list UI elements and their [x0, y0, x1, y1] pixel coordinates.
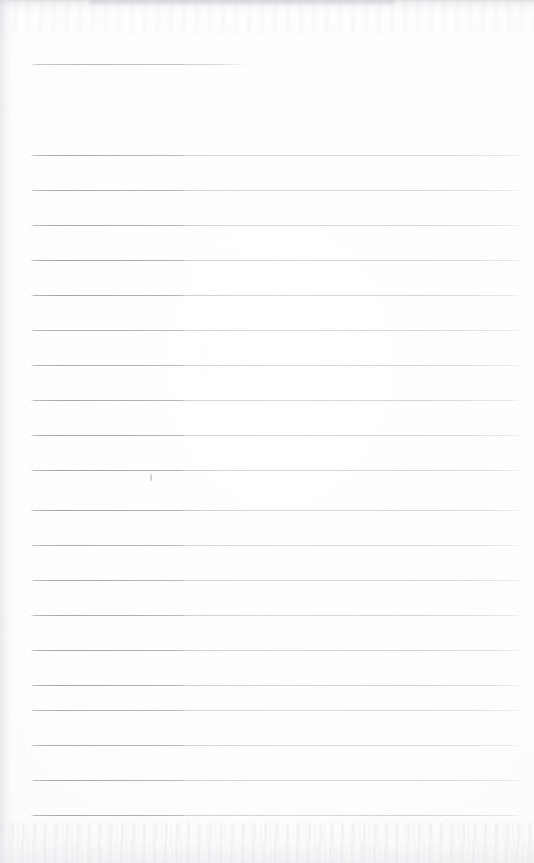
ruled-line-segment-left	[30, 225, 183, 226]
ruled-line-segment-left	[30, 615, 183, 616]
ruled-line	[0, 190, 522, 191]
ruled-line	[0, 435, 522, 436]
ruled-line	[0, 580, 522, 581]
ruled-line-segment-right	[183, 330, 522, 331]
ruled-line-segment-right	[183, 295, 522, 296]
ruled-line	[0, 685, 522, 686]
paper-background	[0, 0, 534, 863]
scan-edge-left-shadow	[0, 0, 18, 863]
ruled-line	[0, 330, 522, 331]
ruled-line-segment-left	[30, 190, 183, 191]
ruled-line-segment-right	[183, 780, 522, 781]
ruled-line-segment-left	[30, 470, 183, 471]
ruled-line-segment-left	[30, 155, 183, 156]
ruled-line-segment-left	[30, 64, 183, 65]
ruled-line	[0, 650, 522, 651]
ruled-line-segment-right	[183, 710, 522, 711]
ruled-line	[0, 64, 522, 65]
ruled-line-segment-right	[183, 685, 522, 686]
ruled-line-segment-right	[183, 190, 522, 191]
ruled-line-segment-left	[30, 745, 183, 746]
scan-edge-bottom-shadow	[0, 817, 534, 863]
ruled-line	[0, 295, 522, 296]
ruled-line	[0, 815, 522, 816]
ruled-line-segment-left	[30, 365, 183, 366]
ruled-line-segment-right	[183, 745, 522, 746]
ruled-line-segment-right	[183, 545, 522, 546]
ruled-line	[0, 510, 522, 511]
ruled-line	[0, 155, 522, 156]
ruled-line-segment-right	[183, 580, 522, 581]
ruled-line-segment-left	[30, 510, 183, 511]
ruled-line	[0, 780, 522, 781]
ruled-line	[0, 365, 522, 366]
ruled-line-segment-left	[30, 780, 183, 781]
ruled-line	[0, 260, 522, 261]
ruled-line-segment-left	[30, 330, 183, 331]
ruled-line-segment-right	[183, 470, 522, 471]
pencil-tick	[150, 472, 152, 481]
ruled-line-segment-left	[30, 815, 183, 816]
ruled-line	[0, 545, 522, 546]
ruled-line-segment-left	[30, 580, 183, 581]
ruled-line-segment-right	[183, 225, 522, 226]
ruled-line-segment-left	[30, 435, 183, 436]
ruled-line-segment-left	[30, 710, 183, 711]
ruled-line-segment-right	[183, 650, 522, 651]
ruled-line-segment-left	[30, 400, 183, 401]
ruled-line-segment-left	[30, 650, 183, 651]
ruled-line-segment-right	[183, 615, 522, 616]
ruled-line	[0, 225, 522, 226]
scanned-page	[0, 0, 534, 863]
ruled-line	[0, 400, 522, 401]
ruled-line	[0, 470, 522, 471]
ruled-line	[0, 710, 522, 711]
ruled-line-segment-right	[183, 260, 522, 261]
ruled-line	[0, 745, 522, 746]
ruled-line-segment-right	[183, 400, 522, 401]
ruled-line-segment-left	[30, 260, 183, 261]
ruled-line-segment-right	[183, 64, 248, 65]
ruled-line-segment-right	[183, 155, 522, 156]
ruled-line-segment-left	[30, 295, 183, 296]
ruled-line	[0, 615, 522, 616]
ruled-line-segment-left	[30, 685, 183, 686]
ruled-line-segment-right	[183, 365, 522, 366]
scan-edge-top-streak	[90, 0, 394, 7]
ruled-line-segment-right	[183, 510, 522, 511]
ruled-line-segment-right	[183, 435, 522, 436]
ruled-line-segment-right	[183, 815, 522, 816]
ruled-line-segment-left	[30, 545, 183, 546]
